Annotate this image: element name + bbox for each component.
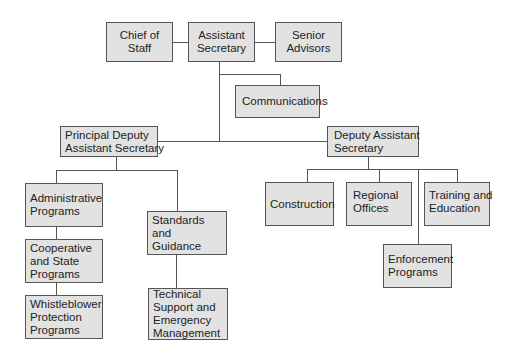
connector-deputies-bar [158, 141, 327, 142]
connector-comm-branch [219, 74, 281, 75]
node-label: Enforcement [388, 253, 447, 266]
node-senior-advisors: Senior Advisors [275, 22, 342, 62]
node-label: Assistant Secretary [65, 142, 153, 155]
node-label: Management [153, 327, 223, 340]
node-label: Guidance [152, 240, 222, 253]
node-label: Administrative [30, 192, 98, 205]
node-label: Cooperative [30, 242, 98, 255]
node-label: Protection [30, 311, 98, 324]
node-label: Programs [30, 205, 98, 218]
node-label: Programs [388, 266, 447, 279]
connector-training-drop [457, 169, 458, 182]
node-label: Construction [270, 198, 329, 211]
node-administrative-programs: Administrative Programs [25, 183, 103, 227]
node-label: Training and [429, 189, 485, 202]
node-standards-guidance: Standards and Guidance [147, 211, 227, 255]
node-label: Programs [30, 268, 98, 281]
connector-construction-drop [307, 169, 308, 182]
node-label: and [152, 227, 222, 240]
connector-admin-coop [56, 227, 57, 239]
node-enforcement-programs: Enforcement Programs [383, 244, 452, 288]
node-label: Assistant [198, 29, 245, 42]
node-label: Senior [292, 29, 325, 42]
node-deputy-assistant: Deputy Assistant Secretary [327, 126, 419, 157]
connector-standards-tech [176, 255, 177, 288]
connector-comm-drop [280, 74, 281, 85]
node-label: Secretary [334, 142, 412, 155]
connector-pd-bar [56, 170, 178, 171]
node-label: Support and [153, 301, 223, 314]
node-label: Programs [30, 324, 98, 337]
node-label: Deputy Assistant [334, 129, 412, 142]
node-training-education: Training and Education [424, 182, 490, 226]
node-label: Whistleblower [30, 298, 98, 311]
node-label: Principal Deputy [65, 129, 153, 142]
node-label: Technical [153, 288, 223, 301]
node-regional-offices: Regional Offices [346, 182, 412, 226]
node-label: Advisors [286, 42, 330, 55]
node-chief-of-staff: Chief of Staff [106, 22, 173, 62]
connector-coop-whistle [56, 283, 57, 295]
node-label: Offices [353, 202, 405, 215]
connector-enforcement-drop [418, 169, 419, 244]
connector-chief-assistant [173, 42, 188, 43]
connector-admin-drop [56, 170, 57, 183]
connector-standards-drop [177, 170, 178, 211]
node-label: and State [30, 255, 98, 268]
node-label: Staff [128, 42, 151, 55]
node-label: Emergency [153, 314, 223, 327]
connector-da-bar [307, 169, 458, 170]
connector-da-down [368, 156, 369, 169]
node-label: Chief of [120, 29, 160, 42]
connector-assistant-senior [255, 42, 275, 43]
node-whistleblower: Whistleblower Protection Programs [25, 295, 103, 339]
connector-pd-down [116, 156, 117, 170]
node-label: Secretary [197, 42, 246, 55]
node-label: Communications [242, 95, 313, 108]
node-technical-support: Technical Support and Emergency Manageme… [148, 288, 228, 340]
node-label: Regional [353, 189, 405, 202]
node-construction: Construction [265, 182, 334, 226]
node-communications: Communications [235, 85, 320, 118]
node-assistant-secretary: Assistant Secretary [188, 22, 255, 62]
node-label: Standards [152, 214, 222, 227]
node-principal-deputy: Principal Deputy Assistant Secretary [60, 126, 158, 157]
connector-regional-drop [379, 169, 380, 182]
node-label: Education [429, 202, 485, 215]
node-cooperative-state: Cooperative and State Programs [25, 239, 103, 283]
